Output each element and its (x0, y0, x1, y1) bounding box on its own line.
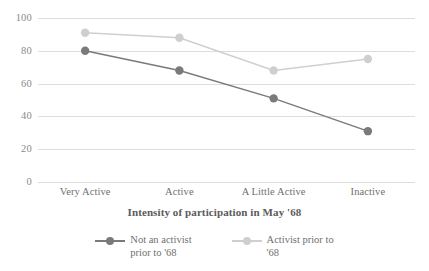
y-tick-label: 0 (0, 177, 32, 188)
series-line (85, 51, 368, 131)
line-chart: 100 80 60 40 20 0 Very Active Active A L… (0, 0, 429, 271)
data-point[interactable] (364, 55, 372, 63)
y-tick-label: 40 (0, 111, 32, 122)
y-tick-label: 80 (0, 46, 32, 57)
x-tick-label: Inactive (313, 186, 423, 198)
series-line (85, 33, 368, 71)
legend-label-line1: Not an activist (130, 234, 191, 245)
legend-label-line2: prior to '68 (130, 247, 176, 258)
series-layer (38, 18, 415, 182)
legend-label-line2: '68 (267, 247, 279, 258)
data-point[interactable] (269, 94, 277, 102)
legend-label: Not an activist prior to '68 (130, 234, 191, 259)
legend-item-activist[interactable]: Activist prior to '68 (232, 234, 334, 259)
y-axis-labels: 100 80 60 40 20 0 (0, 18, 32, 182)
legend-dot (243, 237, 251, 245)
data-point[interactable] (364, 127, 372, 135)
legend-dot (106, 237, 114, 245)
legend-swatch-icon (232, 235, 262, 247)
y-tick-label: 100 (0, 13, 32, 24)
legend-item-not-an-activist[interactable]: Not an activist prior to '68 (95, 234, 191, 259)
x-axis-title: Intensity of participation in May '68 (0, 206, 429, 218)
gridline (38, 182, 415, 183)
data-point[interactable] (175, 66, 183, 74)
legend-swatch-icon (95, 235, 125, 247)
data-point[interactable] (175, 33, 183, 41)
y-tick-label: 20 (0, 144, 32, 155)
y-tick-label: 60 (0, 79, 32, 90)
plot-area (38, 18, 415, 182)
legend-label-line1: Activist prior to (267, 234, 334, 245)
chart-legend: Not an activist prior to '68 Activist pr… (0, 234, 429, 259)
data-point[interactable] (81, 29, 89, 37)
legend-label: Activist prior to '68 (267, 234, 334, 259)
data-point[interactable] (269, 66, 277, 74)
data-point[interactable] (81, 47, 89, 55)
